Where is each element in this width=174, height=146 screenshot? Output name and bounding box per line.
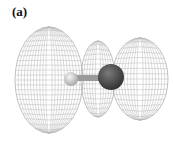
large-atom (98, 64, 124, 90)
bond (76, 75, 100, 81)
orbital-diagram (0, 0, 174, 146)
small-atom (64, 72, 78, 86)
